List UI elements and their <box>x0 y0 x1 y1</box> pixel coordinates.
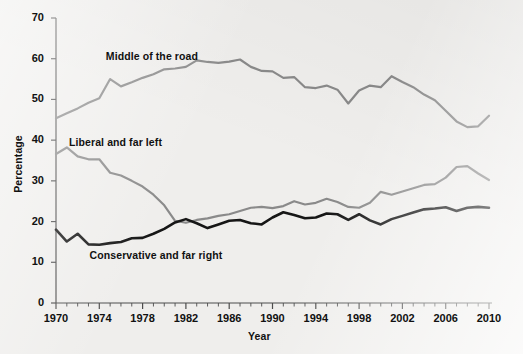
series-label: Conservative and far right <box>90 249 223 261</box>
series-lines <box>56 60 489 245</box>
y-axis-tick-label: 0 <box>18 296 44 308</box>
y-axis-tick-label: 40 <box>18 133 44 145</box>
x-axis-tick-label: 1982 <box>166 312 206 324</box>
y-axis-tick-label: 20 <box>18 215 44 227</box>
x-axis-tick-label: 1998 <box>339 312 379 324</box>
series-line <box>56 207 489 245</box>
x-axis-title: Year <box>248 330 271 342</box>
x-axis-tick-label: 1990 <box>253 312 293 324</box>
y-axis-tick-label: 10 <box>18 255 44 267</box>
series-label: Middle of the road <box>106 50 198 62</box>
x-axis-tick-label: 1994 <box>296 312 336 324</box>
x-axis-ticks <box>56 303 489 309</box>
x-axis-tick-label: 1978 <box>123 312 163 324</box>
x-axis-tick-label: 1970 <box>36 312 76 324</box>
x-axis-tick-label: 2002 <box>382 312 422 324</box>
y-axis-ticks <box>51 18 56 303</box>
series-line <box>56 147 489 222</box>
y-axis-tick-label: 60 <box>18 52 44 64</box>
series-line <box>56 60 489 128</box>
x-axis-tick-label: 2010 <box>469 312 509 324</box>
y-axis-tick-label: 50 <box>18 92 44 104</box>
x-axis-tick-label: 1986 <box>209 312 249 324</box>
chart-container: Percentage Year 010203040506070 19701974… <box>0 0 523 354</box>
series-label: Liberal and far left <box>69 136 162 148</box>
y-axis-tick-label: 30 <box>18 174 44 186</box>
y-axis-tick-label: 70 <box>18 11 44 23</box>
x-axis-tick-label: 1974 <box>79 312 119 324</box>
line-chart-plot <box>0 0 523 354</box>
x-axis-tick-label: 2006 <box>426 312 466 324</box>
